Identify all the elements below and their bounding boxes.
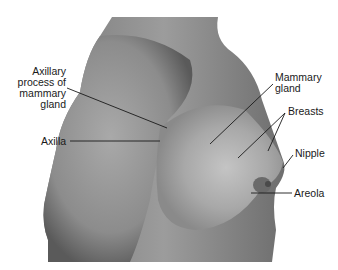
label-mammary-gland: Mammary gland (275, 72, 322, 94)
label-line: Axilla (41, 135, 66, 147)
label-areola: Areola (294, 188, 324, 199)
label-axillary-process: Axillary process of mammary gland (14, 66, 66, 110)
label-nipple: Nipple (295, 148, 325, 159)
label-line: Breasts (288, 105, 324, 117)
breast-anatomy-figure: Axillary process of mammary gland Axilla… (0, 0, 338, 270)
nipple-shape (265, 181, 271, 187)
label-line: gland (275, 83, 322, 94)
label-line: Areola (294, 187, 324, 199)
label-line: Nipple (295, 147, 325, 159)
label-line: gland (14, 99, 66, 110)
label-breasts: Breasts (288, 106, 324, 117)
label-axilla: Axilla (41, 136, 66, 147)
leader-nipple (283, 155, 293, 168)
